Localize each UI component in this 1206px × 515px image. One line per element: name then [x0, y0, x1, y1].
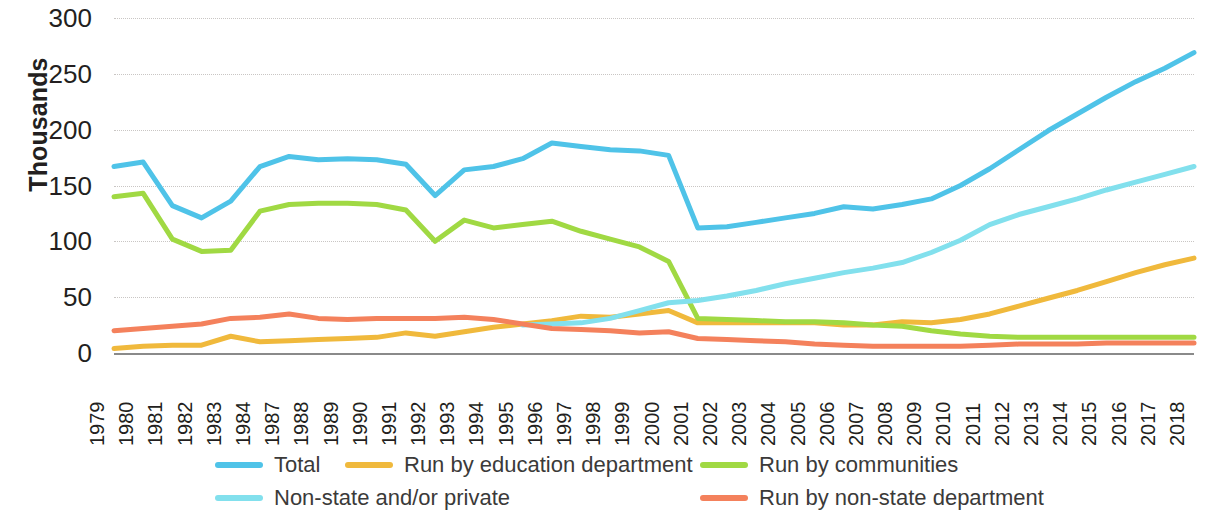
- legend-label: Run by education department: [404, 452, 693, 478]
- x-tick-label: 1992: [408, 402, 428, 447]
- x-tick-label: 1982: [175, 402, 195, 447]
- legend-item[interactable]: Run by communities: [700, 450, 958, 480]
- x-tick-label: 1998: [583, 402, 603, 447]
- y-tick-label: 50: [26, 284, 92, 310]
- legend-color-swatch: [700, 462, 748, 468]
- x-tick-label: 2013: [1021, 402, 1041, 447]
- x-tick-label: 1983: [204, 402, 224, 447]
- plot-area: [114, 18, 1194, 353]
- legend-label: Run by communities: [759, 452, 958, 478]
- axis-baseline: [114, 353, 1194, 355]
- legend-color-swatch: [700, 495, 748, 501]
- x-tick-label: 1996: [525, 402, 545, 447]
- x-tick-label: 1991: [379, 402, 399, 447]
- legend-label: Total: [274, 452, 320, 478]
- x-tick-label: 2017: [1138, 402, 1158, 447]
- x-tick-label: 1988: [291, 402, 311, 447]
- y-tick-label: 0: [26, 340, 92, 366]
- x-tick-label: 2015: [1079, 402, 1099, 447]
- legend-item[interactable]: Run by education department: [345, 450, 693, 480]
- legend-color-swatch: [215, 462, 263, 468]
- x-tick-label: 2006: [817, 402, 837, 447]
- x-tick-label: 2001: [671, 402, 691, 447]
- x-tick-label: 1980: [116, 402, 136, 447]
- x-tick-label: 2016: [1109, 402, 1129, 447]
- legend-item[interactable]: Total: [215, 450, 320, 480]
- x-tick-label: 2010: [933, 402, 953, 447]
- x-tick-label: 1979: [87, 402, 107, 447]
- chart-legend: TotalRun by education departmentRun by c…: [0, 450, 1206, 515]
- line-chart: Thousands 050100150200250300 19791980198…: [0, 0, 1206, 515]
- x-tick-label: 2008: [875, 402, 895, 447]
- x-tick-label: 1984: [233, 402, 253, 447]
- legend-color-swatch: [345, 462, 393, 468]
- legend-label: Non-state and/or private: [274, 485, 510, 511]
- x-tick-label: 2007: [846, 402, 866, 447]
- legend-color-swatch: [215, 495, 263, 501]
- x-tick-label: 2011: [963, 403, 983, 446]
- x-tick-label: 1994: [466, 402, 486, 447]
- legend-item[interactable]: Non-state and/or private: [215, 483, 510, 513]
- x-tick-label: 1995: [496, 402, 516, 447]
- x-tick-label: 1981: [145, 402, 165, 447]
- x-tick-label: 2005: [788, 402, 808, 447]
- series-line: [114, 53, 1194, 228]
- y-tick-label: 250: [26, 61, 92, 87]
- y-tick-label: 100: [26, 228, 92, 254]
- x-tick-label: 2014: [1050, 402, 1070, 447]
- x-tick-label: 1990: [350, 402, 370, 447]
- x-tick-label: 2002: [700, 402, 720, 447]
- x-tick-label: 1997: [554, 402, 574, 447]
- x-tick-label: 2003: [729, 402, 749, 447]
- legend-label: Run by non-state department: [759, 485, 1044, 511]
- y-tick-label: 150: [26, 173, 92, 199]
- y-tick-label: 200: [26, 117, 92, 143]
- x-tick-label: 1989: [321, 402, 341, 447]
- x-axis-ticks: 1979198019811982198319841987198819891990…: [114, 358, 1194, 446]
- y-tick-label: 300: [26, 5, 92, 31]
- x-tick-label: 1987: [262, 402, 282, 447]
- x-tick-label: 2018: [1167, 402, 1187, 447]
- series-line: [523, 167, 1194, 326]
- x-tick-label: 1999: [612, 402, 632, 447]
- x-tick-label: 2004: [758, 402, 778, 447]
- x-tick-label: 2009: [904, 402, 924, 447]
- legend-item[interactable]: Run by non-state department: [700, 483, 1044, 513]
- x-tick-label: 2012: [992, 402, 1012, 447]
- x-tick-label: 2000: [642, 402, 662, 447]
- x-tick-label: 1993: [437, 402, 457, 447]
- y-axis-ticks: 050100150200250300: [26, 0, 92, 515]
- series-lines: [114, 18, 1194, 353]
